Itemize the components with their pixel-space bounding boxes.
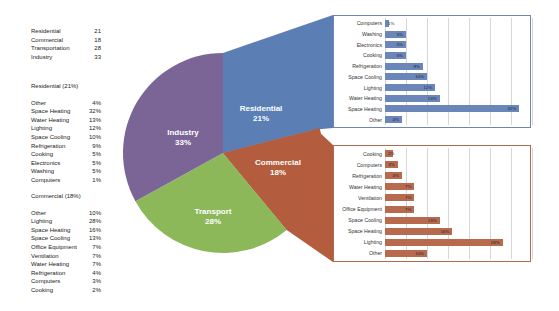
bar-value: 13% <box>428 217 437 224</box>
bar: 7% <box>385 183 414 190</box>
label-name: Commercial <box>250 158 306 168</box>
bar-value: 5% <box>397 41 403 48</box>
bar: 16% <box>385 228 452 235</box>
bar: 32% <box>385 105 519 112</box>
commercial-bar-chart: Cooking2%Computers3%Refrigeration4%Water… <box>333 145 531 262</box>
bar: 7% <box>385 206 414 213</box>
bar-value: 9% <box>413 63 419 70</box>
bar-value: 13% <box>428 95 437 102</box>
bar: 9% <box>385 63 423 70</box>
category-label: Space Heating <box>334 106 382 112</box>
category-label: Electronics <box>334 42 382 48</box>
bar: 28% <box>385 239 503 246</box>
bar: 13% <box>385 95 440 102</box>
bar: 4% <box>385 172 402 179</box>
category-label: Space Heating <box>334 228 382 234</box>
bar: 10% <box>385 73 427 80</box>
bar-value: 10% <box>415 250 424 257</box>
label-pct: 18% <box>250 168 306 178</box>
residential-bar-chart: Computers1%Washing5%Electronics5%Cooking… <box>333 15 531 128</box>
bar-value: 5% <box>397 52 403 59</box>
bar: 7% <box>385 194 414 201</box>
category-label: Lighting <box>334 85 382 91</box>
pie-label-transport: Transport 28% <box>188 207 238 227</box>
label-pct: 21% <box>236 114 286 124</box>
category-label: Refrigeration <box>334 63 382 69</box>
category-label: Water Heating <box>334 184 382 190</box>
bar-value: 7% <box>405 183 411 190</box>
bar: 13% <box>385 217 440 224</box>
bar-value: 12% <box>424 84 433 91</box>
gridline <box>532 18 533 125</box>
label-name: Residential <box>236 104 286 114</box>
category-label: Computers <box>334 20 382 26</box>
bar-value: 10% <box>415 73 424 80</box>
category-label: Refrigeration <box>334 173 382 179</box>
gridline <box>511 148 512 259</box>
bar: 2% <box>385 150 393 157</box>
category-label: Computers <box>334 162 382 168</box>
category-label: Space Cooling <box>334 74 382 80</box>
bar: 1% <box>385 20 389 27</box>
category-label: Other <box>334 117 382 123</box>
category-label: Lighting <box>334 239 382 245</box>
gridline <box>532 148 533 259</box>
bar-value: 16% <box>440 228 449 235</box>
label-name: Transport <box>188 207 238 217</box>
bar-value: 4% <box>392 172 398 179</box>
category-label: Office Equipment <box>334 206 382 212</box>
bar-value: 7% <box>405 206 411 213</box>
bar-value: 32% <box>508 105 517 112</box>
category-label: Other <box>334 250 382 256</box>
label-pct: 33% <box>158 138 208 148</box>
bar-value: 1% <box>388 20 394 27</box>
pie-label-commercial: Commercial 18% <box>250 158 306 178</box>
bar: 4% <box>385 116 402 123</box>
bar: 12% <box>385 84 435 91</box>
bar-value: 4% <box>392 116 398 123</box>
category-label: Ventilation <box>334 195 382 201</box>
category-label: Washing <box>334 31 382 37</box>
label-pct: 28% <box>188 217 238 227</box>
bar-value: 5% <box>397 31 403 38</box>
bar-value: 3% <box>388 161 394 168</box>
bar: 5% <box>385 41 406 48</box>
bar-value: 2% <box>388 150 394 157</box>
bar-value: 28% <box>491 239 500 246</box>
bar: 5% <box>385 52 406 59</box>
category-label: Cooking <box>334 52 382 58</box>
bar-value: 7% <box>405 194 411 201</box>
bar: 10% <box>385 250 427 257</box>
category-label: Cooking <box>334 151 382 157</box>
pie-label-residential: Residential 21% <box>236 104 286 124</box>
pie-label-industry: Industry 33% <box>158 128 208 148</box>
bar: 3% <box>385 161 398 168</box>
category-label: Water Heating <box>334 95 382 101</box>
label-name: Industry <box>158 128 208 138</box>
category-label: Space Cooling <box>334 217 382 223</box>
bar: 5% <box>385 31 406 38</box>
